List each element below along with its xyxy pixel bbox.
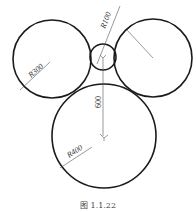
left-radius-label: R300 (26, 62, 45, 80)
figure-caption: 图 1.1.22 (0, 199, 196, 210)
small-radius-label: R100 (98, 11, 113, 31)
right-radius-leader (127, 30, 153, 58)
vertical-dimension-label: 600 (94, 96, 103, 108)
left-circle (13, 20, 91, 98)
big-circle (52, 84, 156, 188)
big-center-mark-icon (100, 134, 108, 141)
big-radius-label: R400 (64, 143, 84, 160)
small-center-mark-icon (100, 55, 106, 61)
diagram-canvas: R300 R100 600 R400 (0, 0, 196, 212)
